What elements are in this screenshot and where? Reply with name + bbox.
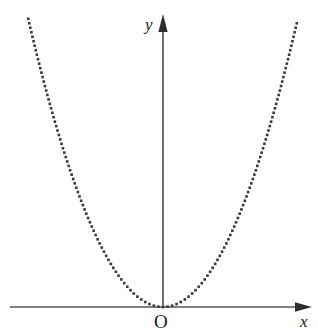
curve-dot <box>271 116 274 119</box>
x-axis-label: x <box>300 313 308 330</box>
curve-dot <box>50 107 53 110</box>
curve-dot <box>184 298 187 301</box>
curve-dot <box>187 295 190 298</box>
curve-dot <box>162 306 165 309</box>
curve-dot <box>55 125 58 128</box>
curve-dot <box>110 263 113 266</box>
curve-dot <box>117 274 120 277</box>
curve-dot <box>256 165 259 168</box>
curve-dot <box>284 67 287 70</box>
curve-dot <box>66 160 69 163</box>
curve-dot <box>221 250 224 253</box>
curve-dot <box>235 221 238 224</box>
curve-dot <box>179 301 182 304</box>
curve-dot <box>263 143 266 146</box>
curve-dot <box>34 49 37 52</box>
curve-dot <box>223 246 226 249</box>
curve-dot <box>269 125 272 128</box>
curve-dot <box>92 229 95 232</box>
curve-dot <box>191 292 194 295</box>
curve-dot <box>203 278 206 281</box>
curve-dot <box>129 289 132 292</box>
curve-dot <box>126 285 129 288</box>
curve-dot <box>292 35 295 38</box>
curve-dot <box>136 295 139 298</box>
curve-dot <box>31 35 34 38</box>
curve-dot <box>94 234 97 237</box>
curve-dot <box>214 263 217 266</box>
curve-dot <box>45 89 48 92</box>
curve-dot <box>277 94 280 97</box>
curve-dot <box>87 217 90 220</box>
curve-dot <box>28 22 31 25</box>
curve-dot <box>197 285 200 288</box>
curve-dot <box>253 173 256 176</box>
curve-dot <box>148 303 151 306</box>
x-axis-arrowhead <box>295 302 312 312</box>
curve-dot <box>72 178 75 181</box>
curve-dot <box>279 89 282 92</box>
curve-dot <box>171 304 174 307</box>
curve-dot <box>259 156 262 159</box>
curve-dot <box>96 238 99 241</box>
curve-dot <box>77 191 80 194</box>
curve-dot <box>250 182 253 185</box>
curve-dot <box>70 173 73 176</box>
origin-label: O <box>154 312 168 331</box>
curve-dot <box>238 212 241 215</box>
curve-dot <box>247 191 250 194</box>
parabola-figure: y x O <box>0 0 318 336</box>
curve-dot <box>42 80 45 83</box>
curve-dot <box>144 301 147 304</box>
coordinate-plot <box>0 0 318 336</box>
curve-dot <box>252 178 255 181</box>
curve-dot <box>59 138 62 141</box>
curve-dot <box>56 129 59 132</box>
curve-dot <box>60 143 63 146</box>
curve-dot <box>29 26 32 29</box>
curve-dot <box>245 195 248 198</box>
curve-dot <box>157 305 160 308</box>
curve-dot <box>282 76 285 79</box>
curve-dot <box>240 208 243 211</box>
curve-dot <box>294 26 297 29</box>
curve-dot <box>105 254 108 257</box>
curve-dot <box>47 98 50 101</box>
curve-dot <box>200 282 203 285</box>
curve-dot <box>166 305 169 308</box>
curve-dot <box>112 267 115 270</box>
curve-dot <box>244 199 247 202</box>
curve-dot <box>216 259 219 262</box>
curve-dot <box>206 274 209 277</box>
curve-dot <box>260 151 263 154</box>
curve-dot <box>58 134 61 137</box>
curve-dot <box>274 107 277 110</box>
curve-dot <box>211 267 214 270</box>
curve-dot <box>69 169 72 172</box>
curve-dot <box>75 186 78 189</box>
curve-dot <box>33 44 36 47</box>
curve-dot <box>248 186 251 189</box>
curve-dot <box>242 204 245 207</box>
curve-dot <box>262 147 265 150</box>
y-axis-label: y <box>145 16 153 33</box>
curve-dot <box>80 199 83 202</box>
curve-dot <box>290 44 293 47</box>
curve-dot <box>39 67 42 70</box>
curve-dot <box>78 195 81 198</box>
curve-dot <box>272 111 275 114</box>
curve-dot <box>258 160 261 163</box>
curve-dot <box>237 217 240 220</box>
curve-dot <box>103 250 106 253</box>
curve-dot <box>267 129 270 132</box>
curve-dot <box>133 292 136 295</box>
curve-dot <box>52 116 55 119</box>
curve-dot <box>44 85 47 88</box>
curve-dot <box>281 80 284 83</box>
curve-dot <box>89 221 92 224</box>
curve-dot <box>27 18 30 21</box>
curve-dot <box>175 303 178 306</box>
curve-dot <box>54 120 57 123</box>
curve-dot <box>30 31 33 34</box>
curve-dot <box>49 103 52 106</box>
